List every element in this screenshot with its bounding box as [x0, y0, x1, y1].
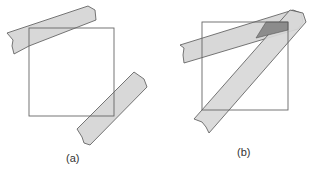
- panel-b-label: (b): [237, 147, 250, 158]
- top-left-strip: [7, 6, 96, 54]
- diagram-canvas: [0, 0, 311, 172]
- panel-b: [180, 10, 306, 133]
- panel-a: [7, 6, 147, 145]
- panel-a-label: (a): [66, 153, 79, 164]
- bottom-right-strip: [77, 72, 147, 145]
